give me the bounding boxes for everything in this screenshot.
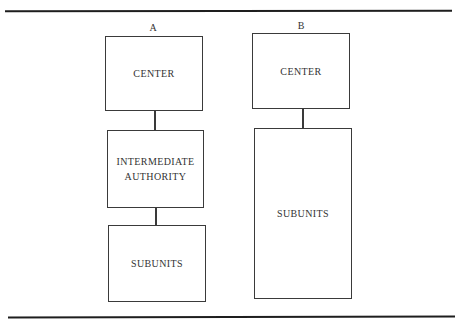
b-center-text: CENTER	[280, 64, 321, 79]
b-subunits-box: SUBUNITS	[254, 128, 352, 299]
a-connector-1	[154, 110, 156, 131]
a-connector-2	[155, 207, 157, 226]
a-subunits-text: SUBUNITS	[131, 256, 183, 271]
b-connector-1	[302, 108, 304, 129]
a-center-box: CENTER	[105, 36, 203, 111]
top-rule	[5, 10, 452, 13]
a-intermediate-text: INTERMEDIATE AUTHORITY	[116, 154, 194, 184]
b-subunits-text: SUBUNITS	[277, 206, 329, 221]
b-center-box: CENTER	[252, 33, 350, 109]
column-a-label: A	[143, 22, 163, 33]
a-intermediate-box: INTERMEDIATE AUTHORITY	[107, 130, 204, 208]
a-center-text: CENTER	[133, 66, 174, 81]
bottom-rule	[8, 316, 455, 319]
a-subunits-box: SUBUNITS	[108, 225, 206, 302]
column-b-label: B	[291, 20, 311, 31]
